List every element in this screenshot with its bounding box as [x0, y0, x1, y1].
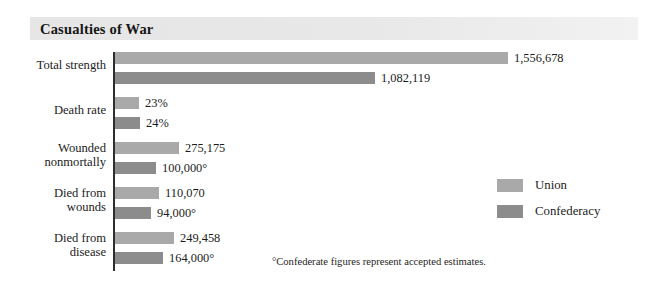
bar-value-label: 23% [145, 96, 168, 111]
bar-value-label: 24% [146, 116, 169, 131]
bar-union[interactable]: 23% [115, 97, 139, 109]
bar-union[interactable]: 110,070 [115, 187, 159, 199]
category-label: Death rate [6, 103, 106, 117]
category-label: Total strength [6, 58, 106, 72]
bar-rect [115, 117, 140, 129]
bar-value-label: 1,082,119 [381, 71, 430, 86]
bar-value-label: 164,000° [169, 251, 214, 266]
category-label: Wounded nonmortally [6, 141, 106, 169]
bar-value-label: 249,458 [180, 231, 220, 246]
page-title: Casualties of War [40, 20, 154, 37]
bar-rect [115, 97, 139, 109]
bar-rect [115, 187, 159, 199]
bar-rect [115, 232, 174, 244]
bar-rect [115, 142, 179, 154]
bar-value-label: 94,000° [157, 206, 196, 221]
bar-confederacy[interactable]: 164,000° [115, 252, 163, 264]
bar-value-label: 275,175 [185, 141, 225, 156]
bar-rect [115, 207, 151, 219]
category-label: Died from disease [6, 231, 106, 259]
bar-rect [115, 162, 156, 174]
footnote-text: °Confederate figures represent accepted … [272, 256, 486, 267]
bar-value-label: 110,070 [165, 186, 205, 201]
bar-confederacy[interactable]: 94,000° [115, 207, 151, 219]
bar-rect [115, 72, 375, 84]
legend-swatch-icon [497, 205, 523, 218]
bar-confederacy[interactable]: 100,000° [115, 162, 156, 174]
bar-value-label: 100,000° [162, 161, 207, 176]
bar-union[interactable]: 249,458 [115, 232, 174, 244]
bar-rect [115, 252, 163, 264]
category-label: Died from wounds [6, 186, 106, 214]
bar-value-label: 1,556,678 [514, 51, 564, 66]
legend-swatch-icon [497, 179, 523, 192]
bar-union[interactable]: 1,556,678 [115, 52, 508, 64]
legend-label: Union [535, 177, 567, 194]
chart-title-band: Casualties of War [30, 17, 638, 40]
bar-union[interactable]: 275,175 [115, 142, 179, 154]
chart-plot-area: Total strength1,556,6781,082,119Death ra… [0, 50, 668, 278]
legend-label: Confederacy [535, 203, 600, 220]
bar-rect [115, 52, 508, 64]
bar-confederacy[interactable]: 1,082,119 [115, 72, 375, 84]
bar-confederacy[interactable]: 24% [115, 117, 140, 129]
